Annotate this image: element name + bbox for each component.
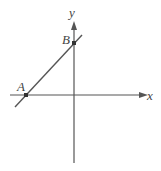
coordinate-diagram: x y A B xyxy=(0,0,161,171)
point-b-label: B xyxy=(62,32,70,47)
point-b-marker xyxy=(72,41,76,45)
y-axis-label: y xyxy=(67,5,75,20)
y-axis-arrow-icon xyxy=(71,21,77,30)
x-axis-label: x xyxy=(146,88,153,103)
point-a-label: A xyxy=(16,79,25,94)
